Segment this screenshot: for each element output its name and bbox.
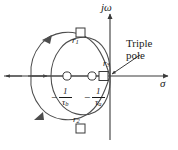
locus-label-r1-subscript: 1 <box>76 38 79 45</box>
triple-pole-annotation: Triple pole <box>126 38 153 62</box>
tau-b-minus-sign: − <box>51 92 57 103</box>
locus-arrow-lower <box>34 112 44 120</box>
tau-a-denominator: τa <box>95 98 101 108</box>
tau-a-minus-sign: − <box>84 92 90 103</box>
locus-direction-arrows <box>34 35 52 120</box>
tau-a-denominator-subscript: a <box>98 100 101 107</box>
locus-branch-r1 <box>31 32 110 76</box>
zero-marker-tau-a <box>88 72 96 80</box>
tau-b-numerator: 1 <box>61 87 70 97</box>
real-axis-label: σ <box>160 78 165 89</box>
tau-b-fraction: 1 τb <box>59 87 72 108</box>
locus-label-r1: r1 <box>72 36 79 46</box>
locus-label-r2-subscript: 2 <box>77 117 80 124</box>
tau-a-fraction: 1 τa <box>92 87 105 108</box>
real-axis-value-tau-a: − 1 τa <box>84 87 105 108</box>
zero-marker-tau-b <box>63 72 71 80</box>
axes-group <box>4 14 168 140</box>
root-locus-figure: jω σ r1 r2 r3 Triple pole − 1 τb − 1 τa <box>0 0 178 150</box>
triple-pole-annotation-line2: pole <box>126 50 153 62</box>
marker-r2 <box>76 124 85 133</box>
tau-b-denominator: τb <box>62 98 68 108</box>
locus-label-r3-subscript: 3 <box>107 61 110 68</box>
locus-label-r3: r3 <box>103 59 110 69</box>
root-locus-diagram <box>0 0 178 150</box>
tau-b-denominator-subscript: b <box>65 100 68 107</box>
locus-label-r2: r2 <box>73 115 80 125</box>
real-axis-value-tau-b: − 1 τb <box>51 87 72 108</box>
locus-arrow-upper <box>42 35 52 44</box>
imaginary-axis-label: jω <box>101 2 112 13</box>
marker-r3 <box>99 72 108 81</box>
tau-a-numerator: 1 <box>94 87 103 97</box>
locus-inner-loop-upper <box>51 37 110 76</box>
